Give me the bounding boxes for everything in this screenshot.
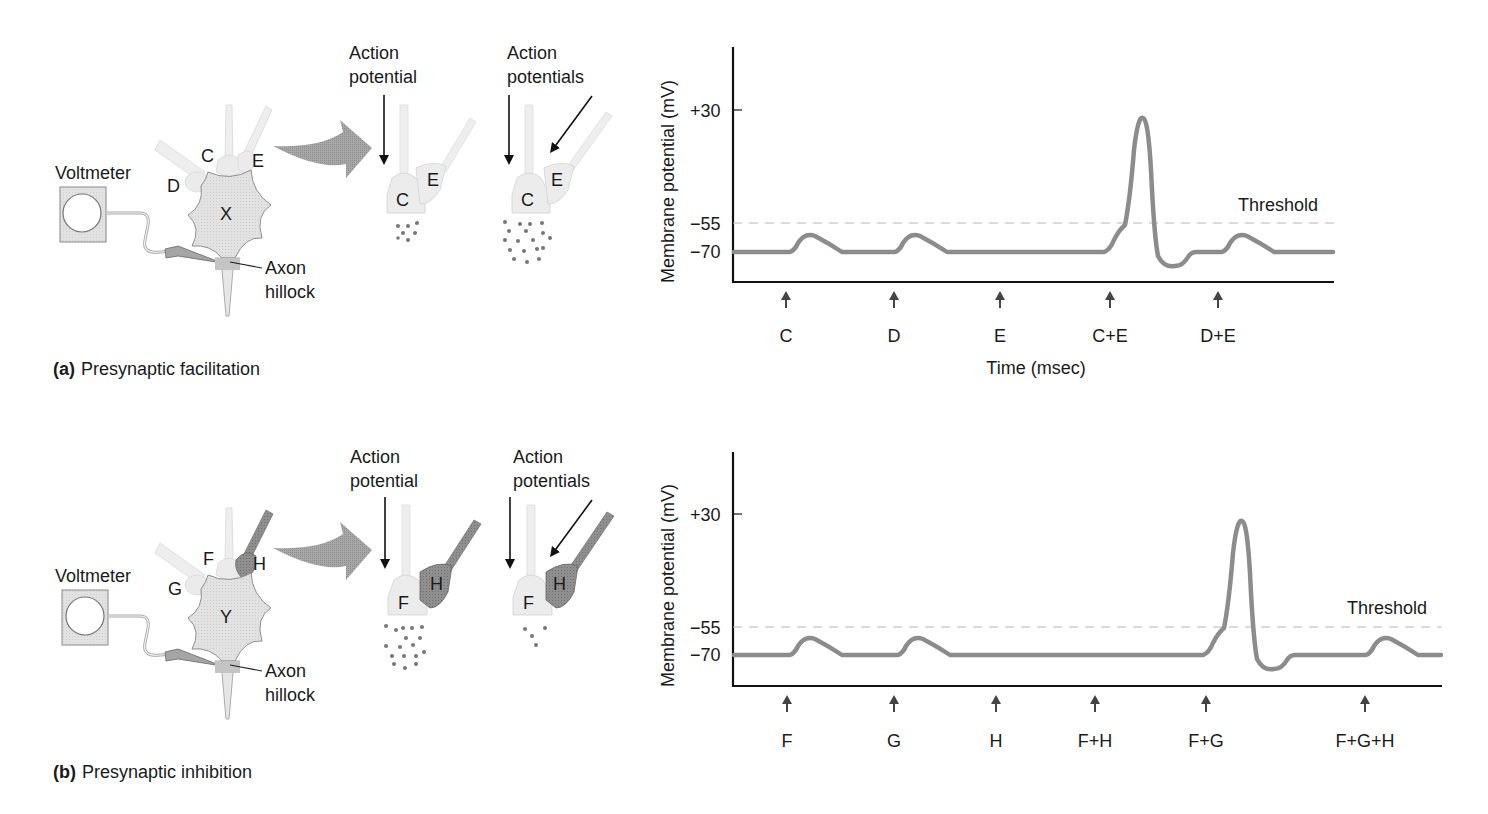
svg-text:E: E: [551, 170, 563, 190]
stim-f: F: [782, 695, 793, 751]
axon-hillock-b: [215, 661, 240, 673]
svg-text:D: D: [888, 326, 901, 346]
caption-b: (b)Presynaptic inhibition: [53, 762, 252, 782]
voltmeter-label: Voltmeter: [55, 163, 131, 183]
stim-g: G: [887, 695, 901, 751]
ytick-30: +30: [690, 505, 721, 525]
stim-d-e: D+E: [1200, 291, 1236, 346]
figure-canvas: Voltmeter C D E X Axon hillock: [0, 0, 1488, 814]
threshold-label: Threshold: [1347, 598, 1427, 618]
svg-text:F+H: F+H: [1078, 731, 1113, 751]
svg-text:C+E: C+E: [1092, 326, 1128, 346]
svg-text:potential: potential: [349, 67, 417, 87]
threshold-label: Threshold: [1238, 195, 1318, 215]
panel-a: Voltmeter C D E X Axon hillock: [53, 43, 612, 379]
ytick-30: +30: [690, 101, 721, 121]
label-g: G: [168, 579, 182, 599]
panel-b: Voltmeter F G H Y Axon hillock Action: [53, 447, 614, 782]
stimulus-markers-a: C D E C+E D+E: [780, 291, 1236, 346]
stim-d: D: [888, 291, 901, 346]
svg-text:H: H: [553, 574, 566, 594]
stim-f-g: F+G: [1188, 695, 1224, 751]
stim-f-h: F+H: [1078, 695, 1113, 751]
stimulus-markers-b: F G H F+H F+G F+G+H: [782, 695, 1395, 751]
svg-text:potentials: potentials: [507, 67, 584, 87]
axon-label: Axon: [265, 661, 306, 681]
ytick-55: −55: [690, 618, 721, 638]
chart-b: Membrane potential (mV) +30 −55 −70 Thre…: [658, 452, 1442, 751]
ytick-55: −55: [690, 214, 721, 234]
svg-text:G: G: [887, 731, 901, 751]
hillock-label: hillock: [265, 282, 316, 302]
voltmeter-label: Voltmeter: [55, 566, 131, 586]
label-e: E: [252, 151, 264, 171]
vesicles-few: [523, 626, 547, 647]
axon-hillock-a: [215, 258, 240, 270]
stim-h: H: [990, 695, 1003, 751]
svg-text:E: E: [994, 326, 1006, 346]
stim-f-g-h: F+G+H: [1335, 695, 1394, 751]
svg-text:C: C: [396, 190, 409, 210]
ytick-70: −70: [690, 645, 721, 665]
stim-e: E: [994, 291, 1006, 346]
stim-c: C: [780, 291, 793, 346]
svg-text:Action: Action: [513, 447, 563, 467]
svg-text:Action: Action: [349, 43, 399, 63]
inset-b2: Action potentials F H: [510, 447, 614, 647]
chart-a: Membrane potential (mV) +30 −55 −70 Thre…: [658, 47, 1334, 378]
ytick-70: −70: [690, 242, 721, 262]
y-axis-label: Membrane potential (mV): [658, 80, 678, 283]
label-d: D: [167, 176, 180, 196]
label-c: C: [201, 146, 214, 166]
svg-text:C: C: [780, 326, 793, 346]
svg-text:potential: potential: [350, 471, 418, 491]
membrane-trace-a: [734, 118, 1333, 267]
vesicles-many: [384, 624, 426, 670]
label-f: F: [203, 549, 214, 569]
svg-text:Action: Action: [350, 447, 400, 467]
svg-text:D+E: D+E: [1200, 326, 1236, 346]
vesicles-few: [396, 221, 419, 242]
inset-a2: Action potentials C E: [503, 43, 612, 264]
stim-c-e: C+E: [1092, 291, 1128, 346]
axon-label: Axon: [265, 258, 306, 278]
membrane-trace-b: [734, 521, 1441, 670]
label-h: H: [253, 554, 266, 574]
zoom-arrow-a: [273, 120, 372, 178]
svg-text:Action: Action: [507, 43, 557, 63]
inset-a1: Action potential C E: [349, 43, 476, 242]
svg-text:E: E: [427, 170, 439, 190]
hillock-label: hillock: [265, 685, 316, 705]
label-y: Y: [220, 607, 232, 627]
svg-text:F: F: [398, 593, 409, 613]
label-x: X: [220, 204, 232, 224]
svg-text:potentials: potentials: [513, 471, 590, 491]
svg-text:F: F: [782, 731, 793, 751]
inset-b1: Action potential F H: [350, 447, 481, 670]
svg-text:H: H: [990, 731, 1003, 751]
zoom-arrow-b: [273, 522, 372, 580]
vesicles-many: [503, 220, 552, 264]
caption-a: (a)Presynaptic facilitation: [53, 359, 260, 379]
svg-text:F+G: F+G: [1188, 731, 1224, 751]
svg-text:C: C: [521, 190, 534, 210]
svg-text:H: H: [430, 574, 443, 594]
x-axis-label: Time (msec): [986, 358, 1085, 378]
svg-text:F: F: [523, 593, 534, 613]
y-axis-label: Membrane potential (mV): [658, 484, 678, 687]
svg-text:F+G+H: F+G+H: [1335, 731, 1394, 751]
